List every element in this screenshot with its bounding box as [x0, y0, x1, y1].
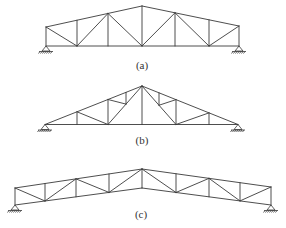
sub-diagonal-member [108, 99, 126, 104]
truss-c [8, 169, 279, 213]
top-chord-right [142, 6, 239, 26]
diagonal-member [176, 113, 209, 125]
diagonal-member [240, 187, 271, 201]
bottom-chord-right [142, 188, 271, 205]
pin-support-right [231, 125, 246, 133]
caption-a: (a) [136, 59, 149, 72]
diagonal-member [77, 13, 108, 46]
top-chord-right [142, 86, 238, 125]
truss-figure: (a) (b) (c) [0, 0, 286, 228]
pin-support-left [39, 46, 54, 54]
sub-diagonal-member [159, 100, 176, 106]
truss-a [39, 6, 247, 54]
diagonal-member [175, 13, 209, 46]
truss-b [38, 86, 246, 132]
pin-support-right [232, 46, 247, 54]
top-chord-left [15, 169, 142, 188]
pin-support-left [8, 205, 23, 213]
pin-support-left [38, 125, 53, 133]
diagonal-member [176, 178, 209, 192]
pin-support-right [264, 205, 279, 213]
caption-b: (b) [136, 134, 149, 147]
diagonal-member [108, 86, 142, 125]
top-chord-right [142, 169, 271, 187]
diagonal-member [76, 179, 109, 193]
diagonal-member [77, 112, 108, 125]
diagonal-member [209, 26, 239, 46]
top-chord-left [46, 6, 142, 27]
diagonal-member [46, 27, 77, 46]
diagonal-member [108, 13, 142, 46]
diagonal-member [142, 13, 175, 46]
caption-c: (c) [135, 208, 148, 221]
diagonal-member [15, 188, 45, 201]
